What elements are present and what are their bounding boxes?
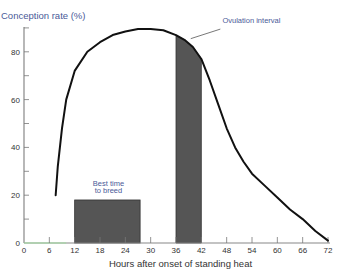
x-tick-label: 0: [22, 246, 27, 255]
x-tick-label: 18: [96, 246, 105, 255]
ovulation-leader-line: [191, 29, 221, 39]
y-tick-label: 0: [16, 239, 21, 248]
x-tick-label: 36: [172, 246, 181, 255]
annotation-label: to breed: [95, 186, 123, 195]
x-tick-label: 72: [324, 246, 333, 255]
x-tick-label: 60: [273, 246, 282, 255]
x-axis-label: Hours after onset of standing heat: [0, 258, 341, 269]
chart-plot: 020406080061218243036424854606672Best ti…: [0, 0, 341, 277]
x-tick-label: 24: [121, 246, 130, 255]
y-tick-label: 20: [11, 191, 20, 200]
x-tick-label: 66: [298, 246, 307, 255]
x-tick-label: 54: [248, 246, 257, 255]
y-tick-label: 60: [11, 96, 20, 105]
y-tick-label: 40: [11, 143, 20, 152]
y-tick-label: 80: [11, 48, 20, 57]
x-tick-label: 30: [146, 246, 155, 255]
x-tick-label: 12: [70, 246, 79, 255]
x-tick-label: 6: [47, 246, 52, 255]
ovulation-interval-region: [176, 35, 201, 243]
x-tick-label: 42: [197, 246, 206, 255]
annotation-label: Ovulation interval: [222, 16, 280, 25]
best-time-region: [75, 200, 140, 243]
x-tick-label: 48: [222, 246, 231, 255]
